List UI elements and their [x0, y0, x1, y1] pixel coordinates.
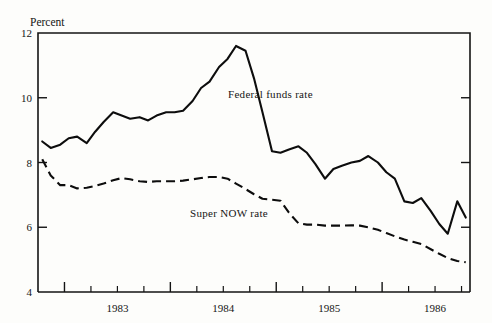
annotation-super-now-rate: Super NOW rate	[190, 207, 268, 219]
y-tick-label: 8	[27, 157, 33, 169]
plot-frame	[38, 33, 470, 292]
annotation-federal-funds-rate: Federal funds rate	[228, 88, 313, 100]
x-tick-label: 1985	[318, 302, 341, 314]
y-tick-label: 10	[21, 92, 33, 104]
line-chart-canvas: 1210864 1983198419851986 Percent Federal…	[0, 0, 492, 323]
x-tick-label: 1983	[106, 302, 129, 314]
chart-figure: 1210864 1983198419851986 Percent Federal…	[0, 0, 492, 323]
y-tick-label: 4	[27, 286, 33, 298]
y-axis-unit-label: Percent	[30, 16, 65, 28]
x-axis-ticks	[64, 282, 461, 292]
x-tick-label: 1984	[212, 302, 235, 314]
y-tick-label: 6	[27, 221, 33, 233]
x-tick-label: 1986	[424, 302, 447, 314]
y-tick-label: 12	[21, 27, 32, 39]
series-line-federal-funds-rate	[42, 46, 466, 234]
y-axis-tick-labels: 1210864	[21, 27, 33, 298]
series-group	[42, 46, 466, 262]
x-axis-tick-labels: 1983198419851986	[106, 302, 446, 314]
